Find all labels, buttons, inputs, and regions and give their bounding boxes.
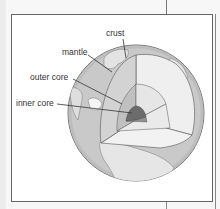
label-crust: crust	[106, 28, 125, 38]
label-outer-core: outer core	[30, 72, 69, 82]
earth-layers-diagram: crust mantle outer core inner core	[0, 0, 220, 209]
label-mantle: mantle	[62, 47, 88, 57]
label-inner-core: inner core	[16, 98, 54, 108]
